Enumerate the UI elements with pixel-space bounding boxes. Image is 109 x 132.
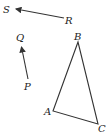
label-s: S xyxy=(3,4,10,15)
label-a: A xyxy=(43,106,51,117)
label-q: Q xyxy=(16,32,24,43)
triangle-shape xyxy=(53,42,98,124)
arrow-rs-icon xyxy=(16,9,64,18)
triangle-abc: B A C xyxy=(43,31,106,132)
vector-pq: Q P xyxy=(16,32,31,92)
arrow-pq-icon xyxy=(22,47,29,79)
vector-rs: S R xyxy=(3,4,73,26)
label-r: R xyxy=(64,15,73,26)
label-p: P xyxy=(23,81,31,92)
label-c: C xyxy=(98,123,106,132)
label-b: B xyxy=(73,31,81,42)
geometry-diagram: S R Q P B A C xyxy=(0,0,109,132)
